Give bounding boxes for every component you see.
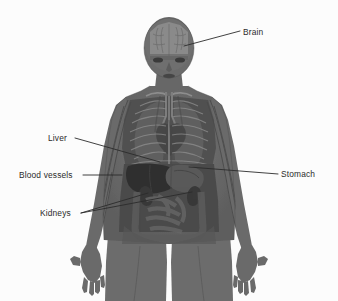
anatomy-diagram: Brain Liver Blood vessels Kidneys Stomac… (0, 0, 338, 301)
anatomy-illustration (0, 0, 338, 301)
left-hand (70, 245, 105, 296)
left-leg (105, 235, 167, 301)
head-contents (150, 22, 188, 60)
label-blood-vessels: Blood vessels (19, 170, 73, 180)
label-kidneys: Kidneys (40, 208, 71, 218)
eye-left-icon (153, 57, 163, 62)
right-leg (171, 235, 233, 301)
label-liver: Liver (48, 133, 67, 143)
right-hand (233, 245, 268, 296)
label-brain: Brain (243, 27, 263, 37)
eye-right-icon (175, 57, 185, 62)
label-stomach: Stomach (281, 169, 315, 179)
